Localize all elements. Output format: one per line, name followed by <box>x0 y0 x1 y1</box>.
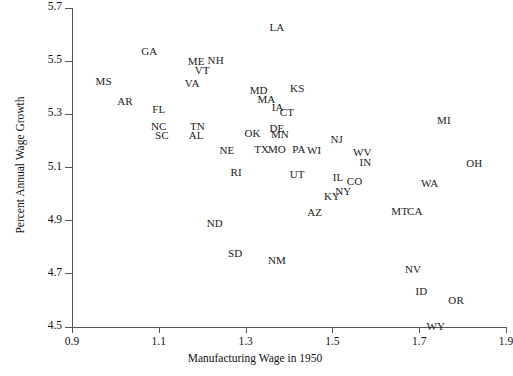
data-point-label: WY <box>426 320 445 331</box>
data-point-label: OH <box>466 157 482 168</box>
y-tick-mark <box>65 61 72 62</box>
data-point-label: OR <box>448 294 463 305</box>
y-tick-mark <box>65 220 72 221</box>
data-point-label: IL <box>333 172 344 183</box>
data-point-label: AR <box>117 95 132 106</box>
y-tick-mark <box>65 114 72 115</box>
y-tick-label: 4.7 <box>48 266 62 278</box>
data-point-label: MT <box>391 206 408 217</box>
data-point-label: WI <box>307 144 321 155</box>
data-point-label: SD <box>228 248 242 259</box>
x-tick-label: 1.1 <box>152 335 166 347</box>
data-point-label: RI <box>230 167 241 178</box>
data-point-label: KS <box>290 83 304 94</box>
data-point-label: GA <box>141 46 157 57</box>
data-point-label: CT <box>280 107 294 118</box>
data-point-label: MN <box>271 129 289 140</box>
x-tick-label: 0.9 <box>65 335 79 347</box>
data-point-label: ID <box>415 286 427 297</box>
data-point-label: PA <box>292 143 305 154</box>
data-point-label: NM <box>268 254 286 265</box>
data-point-label: MI <box>437 114 451 125</box>
x-tick-label: 1.7 <box>412 335 426 347</box>
data-point-label: WA <box>421 177 438 188</box>
data-point-label: FL <box>152 104 165 115</box>
y-tick-label: 5.5 <box>48 53 62 65</box>
x-tick-mark <box>332 327 333 333</box>
data-point-label: MS <box>96 75 112 86</box>
data-point-label: VA <box>185 77 200 88</box>
x-tick-mark <box>246 327 247 333</box>
data-point-label: SC <box>155 130 169 141</box>
data-point-label: ND <box>207 217 223 228</box>
y-tick-label: 5.1 <box>48 160 62 172</box>
data-point-label: KY <box>324 191 340 202</box>
data-point-label: MO <box>268 143 286 154</box>
data-point-label: LA <box>269 22 284 33</box>
data-point-label: NH <box>208 54 224 65</box>
y-tick-label: 5.3 <box>48 106 62 118</box>
data-point-label: IN <box>359 156 371 167</box>
data-point-label: UT <box>290 169 305 180</box>
y-tick-label: 4.9 <box>48 213 62 225</box>
x-tick-label: 1.3 <box>238 335 252 347</box>
y-tick-mark <box>65 273 72 274</box>
y-axis-title-text: Percent Annual Wage Growth <box>14 96 26 233</box>
x-tick-mark <box>419 327 420 333</box>
plot-area: 5.75.55.35.14.94.74.5 0.91.11.31.51.71.9… <box>72 8 506 327</box>
y-tick-mark <box>65 8 72 9</box>
data-point-label: TX <box>254 143 269 154</box>
x-tick-label: 1.9 <box>499 335 513 347</box>
data-point-label: NE <box>220 144 235 155</box>
data-point-label: CA <box>407 206 422 217</box>
x-axis-title: Manufacturing Wage in 1950 <box>0 352 510 364</box>
y-axis-title: Percent Annual Wage Growth <box>8 20 32 310</box>
y-tick-mark <box>65 327 72 328</box>
x-tick-mark <box>159 327 160 333</box>
data-point-label: AZ <box>307 207 322 218</box>
data-point-label: AL <box>189 130 204 141</box>
x-tick-mark <box>506 327 507 333</box>
x-tick-mark <box>72 327 73 333</box>
y-tick-label: 4.5 <box>48 319 62 331</box>
data-point-label: NV <box>405 264 421 275</box>
y-tick-label: 5.7 <box>48 0 62 12</box>
y-tick-mark <box>65 167 72 168</box>
data-point-label: VT <box>195 65 210 76</box>
data-point-label: NJ <box>331 133 343 144</box>
x-tick-label: 1.5 <box>325 335 339 347</box>
data-point-label: OK <box>244 128 260 139</box>
